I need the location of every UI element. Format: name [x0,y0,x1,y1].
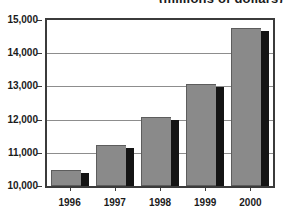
x-axis-label: 2000 [227,197,273,208]
bar [231,28,269,186]
x-axis-label: 1998 [137,197,183,208]
y-axis-label: 13,000 [0,80,38,91]
bar-face [186,84,216,186]
x-axis-label: 1996 [47,197,93,208]
y-axis-label: 12,000 [0,114,38,125]
plot-area: 10,00011,00012,00013,00014,00015,0001996… [45,18,275,188]
bar [186,84,224,186]
bar [96,145,134,186]
x-axis-tick [250,186,251,191]
bar-face [51,170,81,186]
x-axis-tick [70,186,71,191]
bar-face [231,28,261,186]
x-axis-tick [160,186,161,191]
x-axis-tick [115,186,116,191]
bar [51,170,89,186]
chart-title: (millions of dollars) [0,0,283,3]
bar-shadow [126,148,134,186]
y-axis-label: 14,000 [0,47,38,58]
bar-face [141,117,171,186]
bar-shadow [216,87,224,186]
y-axis-label: 10,000 [0,180,38,191]
x-axis-label: 1999 [182,197,228,208]
y-axis-label: 15,000 [0,14,38,25]
bar-face [96,145,126,186]
x-axis-tick [205,186,206,191]
y-axis-label: 11,000 [0,147,38,158]
bar-shadow [261,31,269,186]
bar-shadow [171,120,179,186]
bar-shadow [81,173,89,186]
x-axis-label: 1997 [92,197,138,208]
bar [141,117,179,186]
